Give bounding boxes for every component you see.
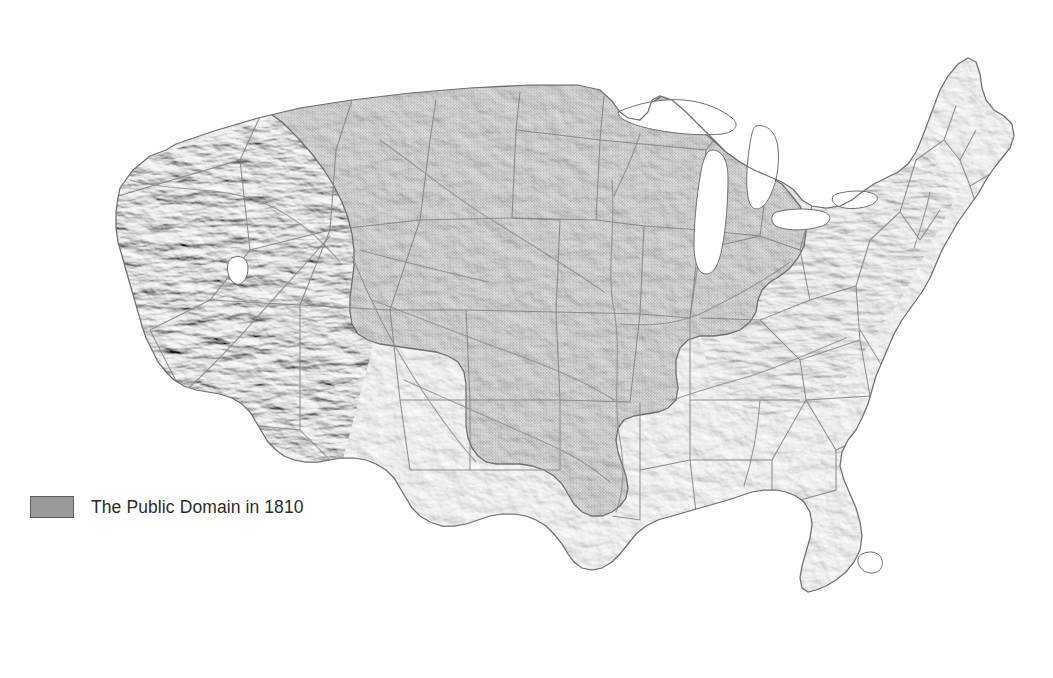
united-states-relief-map xyxy=(0,0,1053,678)
lake-erie xyxy=(772,209,830,230)
great-salt-lake xyxy=(227,256,248,284)
legend-swatch-public-domain xyxy=(30,496,74,518)
map-legend: The Public Domain in 1810 xyxy=(30,496,304,518)
legend-label-public-domain: The Public Domain in 1810 xyxy=(91,497,304,518)
map-figure: The Public Domain in 1810 xyxy=(0,0,1053,678)
